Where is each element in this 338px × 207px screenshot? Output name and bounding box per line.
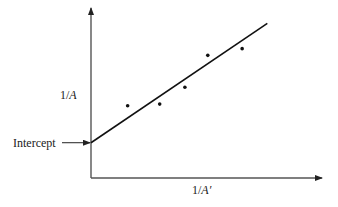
data-points xyxy=(126,47,244,108)
data-point xyxy=(158,102,162,106)
fitted-line xyxy=(91,23,267,142)
y-axis-label-prefix: 1/ xyxy=(60,88,69,102)
y-axis-label: 1/A xyxy=(60,89,77,101)
y-axis-label-variable: A xyxy=(69,88,76,102)
intercept-annotation-label: Intercept xyxy=(13,137,56,149)
x-axis-label-variable: A′ xyxy=(201,183,211,197)
chart-canvas xyxy=(0,0,338,207)
data-point xyxy=(183,85,187,89)
data-point xyxy=(126,104,130,108)
x-axis-label: 1/A′ xyxy=(192,184,211,196)
data-point xyxy=(206,54,210,58)
data-point xyxy=(240,47,244,51)
x-axis-label-prefix: 1/ xyxy=(192,183,201,197)
